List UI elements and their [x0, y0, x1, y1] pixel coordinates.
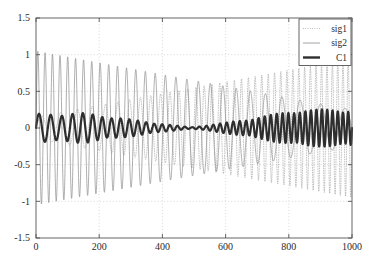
- x-tick-label: 200: [92, 241, 107, 252]
- x-tick-label: 800: [281, 241, 296, 252]
- y-tick-label: 1: [25, 49, 30, 60]
- y-tick-label: 0.5: [18, 86, 31, 97]
- x-tick-label: 400: [155, 241, 170, 252]
- y-tick-label: -0.5: [14, 159, 30, 170]
- y-tick-label: 1.5: [18, 12, 31, 23]
- y-tick-label: 0: [25, 122, 30, 133]
- x-tick-label: 1000: [342, 241, 362, 252]
- y-tick-label: -1: [22, 196, 30, 207]
- y-tick-label: -1.5: [14, 232, 30, 243]
- x-tick-label: 0: [34, 241, 39, 252]
- legend-label-sig1[interactable]: sig1: [331, 24, 347, 34]
- x-tick-label: 600: [218, 241, 233, 252]
- figure-container: 02004006008001000 -1.5-1-0.500.511.5 sig…: [0, 0, 369, 268]
- legend-label-C1[interactable]: C1: [336, 53, 347, 63]
- legend[interactable]: sig1sig2C1: [299, 19, 351, 66]
- legend-label-sig2[interactable]: sig2: [331, 38, 347, 48]
- signal-plot: 02004006008001000 -1.5-1-0.500.511.5 sig…: [0, 0, 369, 268]
